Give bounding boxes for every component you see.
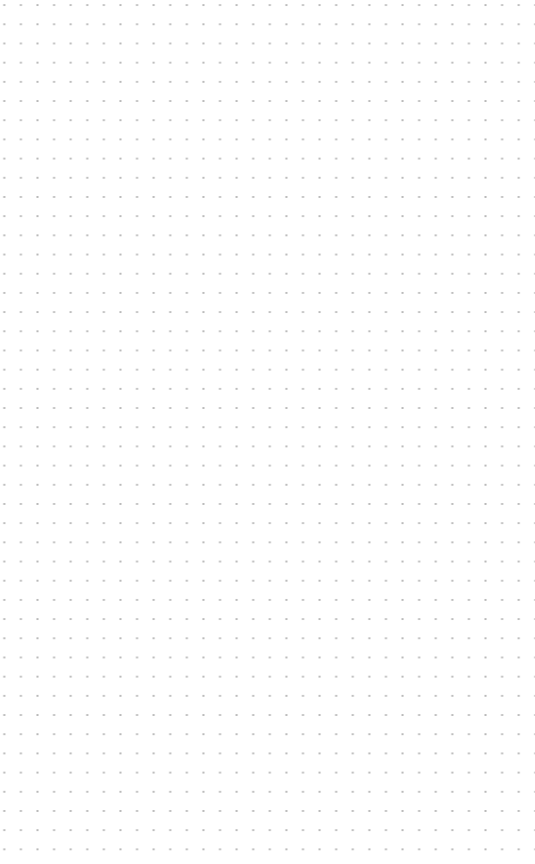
canvas-label xyxy=(0,0,1,1)
dot-grid-canvas[interactable] xyxy=(0,0,535,864)
